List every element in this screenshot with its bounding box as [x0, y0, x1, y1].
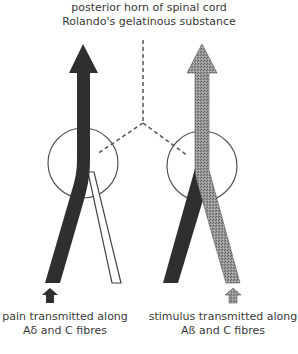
right-caption-line2: Aß and C fibres	[148, 324, 298, 338]
left-input-arrow-icon	[42, 288, 58, 303]
gate-control-diagram	[0, 0, 298, 354]
dashed-connector	[97, 40, 188, 156]
left-caption: pain transmitted along Aδ and C fibres	[0, 310, 130, 338]
right-input-arrow-icon	[225, 288, 241, 303]
left-caption-line2: Aδ and C fibres	[0, 324, 130, 338]
right-caption: stimulus transmitted along Aß and C fibr…	[148, 310, 298, 338]
right-stippled-fibre-arrow	[187, 44, 240, 283]
left-white-fibre	[88, 172, 121, 283]
left-dark-fibre-arrow	[45, 44, 98, 283]
right-pathway	[163, 44, 241, 303]
left-caption-line1: pain transmitted along	[0, 310, 130, 324]
right-caption-line1: stimulus transmitted along	[148, 310, 298, 324]
left-pathway	[42, 44, 121, 303]
